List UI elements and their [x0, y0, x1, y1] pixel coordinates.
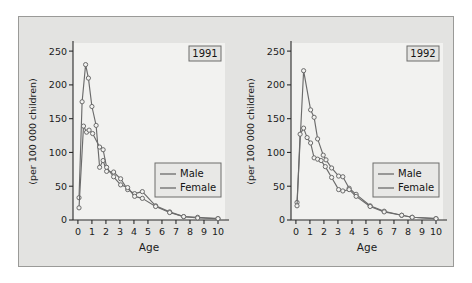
y-axis-title: (per 100 000 children) [245, 78, 256, 185]
x-tick-label: 7 [391, 226, 397, 237]
data-point-female [119, 183, 123, 187]
data-point-female [400, 213, 404, 217]
x-tick-label: 6 [377, 226, 383, 237]
data-point-female [112, 175, 116, 179]
data-point-male [337, 174, 341, 178]
year-badge-label: 1991 [192, 48, 217, 59]
data-point-female [323, 165, 327, 169]
chart-svg-1992: 050100150200250012345678910Age(per 100 0… [237, 17, 455, 268]
data-point-female [337, 188, 341, 192]
x-tick-label: 2 [321, 226, 327, 237]
data-point-female [140, 196, 144, 200]
y-tick-label: 150 [267, 113, 285, 124]
data-point-female [305, 135, 309, 139]
data-point-female [87, 128, 91, 132]
data-point-male [84, 63, 88, 67]
legend-label-female: Female [398, 182, 434, 193]
data-point-female [347, 188, 351, 192]
y-tick-label: 100 [49, 147, 67, 158]
data-point-female [298, 132, 302, 136]
y-tick-label: 0 [279, 214, 285, 225]
data-point-male [112, 170, 116, 174]
data-point-female [330, 175, 334, 179]
data-point-female [77, 206, 81, 210]
data-point-female [434, 217, 438, 221]
x-tick-label: 1 [89, 226, 95, 237]
legend-label-female: Female [180, 182, 216, 193]
y-tick-label: 0 [61, 214, 67, 225]
data-point-female [302, 126, 306, 130]
data-point-male [80, 100, 84, 104]
data-point-female [341, 189, 345, 193]
data-point-female [101, 148, 105, 152]
data-point-male [330, 166, 334, 170]
x-tick-label: 4 [131, 226, 137, 237]
x-tick-label: 8 [405, 226, 411, 237]
data-point-female [196, 216, 200, 220]
data-point-female [354, 194, 358, 198]
legend-label-male: Male [398, 168, 422, 179]
x-tick-label: 9 [419, 226, 425, 237]
y-tick-label: 200 [267, 79, 285, 90]
data-point-female [295, 204, 299, 208]
data-point-female [216, 217, 220, 221]
y-tick-label: 100 [267, 147, 285, 158]
data-point-female [126, 185, 130, 189]
data-point-female [91, 131, 95, 135]
data-point-female [105, 165, 109, 169]
data-point-male [309, 108, 313, 112]
x-axis-title: Age [357, 241, 377, 253]
data-point-female [382, 210, 386, 214]
data-point-male [140, 190, 144, 194]
y-tick-label: 50 [273, 181, 285, 192]
chart-1991: 050100150200250012345678910Age(per 100 0… [19, 17, 237, 268]
y-axis-title: (per 100 000 children) [27, 78, 38, 185]
figure-panel-frame: 050100150200250012345678910Age(per 100 0… [18, 16, 454, 267]
x-tick-label: 9 [201, 226, 207, 237]
chart-svg-1991: 050100150200250012345678910Age(per 100 0… [19, 17, 237, 268]
x-tick-label: 5 [145, 226, 151, 237]
x-tick-label: 0 [75, 226, 81, 237]
data-point-female [133, 194, 137, 198]
data-point-female [154, 204, 158, 208]
x-tick-label: 3 [335, 226, 341, 237]
data-point-female [368, 204, 372, 208]
data-point-female [309, 141, 313, 145]
x-tick-label: 6 [159, 226, 165, 237]
data-point-male [312, 115, 316, 119]
y-tick-label: 150 [49, 113, 67, 124]
data-point-male [316, 137, 320, 141]
data-point-male [119, 177, 123, 181]
x-tick-label: 10 [212, 226, 224, 237]
data-point-female [182, 215, 186, 219]
y-tick-label: 50 [55, 181, 67, 192]
x-axis-title: Age [139, 241, 159, 253]
data-point-female [319, 158, 323, 162]
data-point-male [341, 175, 345, 179]
data-point-male [90, 104, 94, 108]
x-tick-label: 1 [307, 226, 313, 237]
x-tick-label: 0 [293, 226, 299, 237]
year-badge-label: 1992 [410, 48, 435, 59]
x-tick-label: 7 [173, 226, 179, 237]
data-point-male [321, 153, 325, 157]
x-tick-label: 10 [430, 226, 442, 237]
y-tick-label: 250 [49, 46, 67, 57]
y-tick-label: 200 [49, 79, 67, 90]
y-tick-label: 250 [267, 46, 285, 57]
legend-label-male: Male [180, 168, 204, 179]
data-point-male [86, 76, 90, 80]
x-tick-label: 5 [363, 226, 369, 237]
x-tick-label: 3 [117, 226, 123, 237]
data-point-male [302, 69, 306, 73]
x-tick-label: 8 [187, 226, 193, 237]
data-point-female [410, 215, 414, 219]
chart-1992: 050100150200250012345678910Age(per 100 0… [237, 17, 455, 268]
x-tick-label: 4 [349, 226, 355, 237]
data-point-male [94, 123, 98, 127]
figure-canvas: 050100150200250012345678910Age(per 100 0… [0, 0, 472, 283]
data-point-male [98, 165, 102, 169]
data-point-male [324, 158, 328, 162]
x-tick-label: 2 [103, 226, 109, 237]
data-point-female [81, 124, 85, 128]
